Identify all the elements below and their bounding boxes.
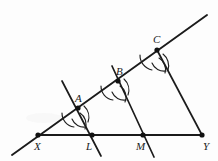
point-label-a: A [74, 92, 82, 104]
point-label-c: C [153, 33, 161, 45]
vertex-dot-a [75, 105, 80, 110]
vertex-dot-b [115, 78, 120, 83]
scan-artifact [26, 113, 62, 123]
construction-diagram: X L M Y A B C [0, 0, 218, 161]
vertex-dot-x [35, 132, 40, 137]
vertex-dot-l [89, 132, 94, 137]
arc-at-C-left [140, 55, 152, 70]
point-label-m: M [135, 140, 146, 152]
vertex-dot-c [154, 47, 159, 52]
geometry-figure-canvas: X L M Y A B C [0, 0, 218, 161]
point-label-x: X [33, 140, 42, 152]
vertex-dot-y [199, 132, 204, 137]
point-label-l: L [85, 140, 92, 152]
arc-at-B-left [101, 86, 113, 100]
vertex-dot-m [140, 132, 145, 137]
point-label-y: Y [203, 140, 211, 152]
point-label-b: B [116, 65, 123, 77]
